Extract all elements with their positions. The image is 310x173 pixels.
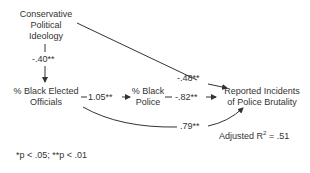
- node-label-line: Ideology: [18, 31, 74, 42]
- fit-label: Adjusted R: [219, 131, 263, 141]
- coef-elected-police: 1.05**: [88, 92, 113, 103]
- coef-police-brutality: -.82**: [175, 92, 198, 103]
- node-reported-police-brutality: Reported Incidents of Police Brutality: [218, 86, 306, 108]
- node-label-line: Police: [130, 97, 166, 108]
- coef-ideology-elected: -.40**: [32, 54, 55, 65]
- node-label-line: % Black: [130, 86, 166, 97]
- node-label-line: Political: [18, 20, 74, 31]
- node-label-line: Officials: [10, 97, 82, 108]
- node-label-line: Reported Incidents: [218, 86, 306, 97]
- coef-elected-brutality: .79**: [180, 121, 200, 132]
- node-conservative-ideology: Conservative Political Ideology: [18, 9, 74, 42]
- coef-ideology-brutality: -.48**: [177, 73, 200, 84]
- node-label-line: of Police Brutality: [218, 97, 306, 108]
- node-black-police: % Black Police: [130, 86, 166, 108]
- significance-footnote: *p < .05; **p < .01: [16, 150, 87, 161]
- fit-value: = .51: [266, 131, 289, 141]
- node-black-elected-officials: % Black Elected Officials: [10, 86, 82, 108]
- adjusted-r-squared: Adjusted R2 = .51: [219, 128, 289, 142]
- node-label-line: Conservative: [18, 9, 74, 20]
- node-label-line: % Black Elected: [10, 86, 82, 97]
